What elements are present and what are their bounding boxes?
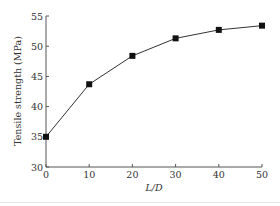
data-series xyxy=(43,23,265,140)
y-tick-label: 35 xyxy=(31,131,43,142)
x-axis-title: L/D xyxy=(144,182,163,193)
data-point-marker xyxy=(129,53,135,59)
divider xyxy=(0,202,280,203)
data-point-marker xyxy=(173,35,179,41)
y-axis-title: Tensile strength (MPa) xyxy=(12,36,23,146)
axes xyxy=(46,16,262,167)
x-tick-label: 20 xyxy=(126,169,138,180)
data-point-marker xyxy=(86,81,92,87)
y-tick-label: 40 xyxy=(31,101,43,112)
x-tick-label: 0 xyxy=(43,169,49,180)
y-tick-label: 45 xyxy=(31,71,43,82)
line-chart: 303540455055 01020304050 L/D Tensile str… xyxy=(0,0,280,206)
y-tick-label: 55 xyxy=(31,11,43,22)
x-tick-label: 50 xyxy=(256,169,268,180)
x-tick-label: 30 xyxy=(170,169,182,180)
data-point-marker xyxy=(259,23,265,29)
data-point-marker xyxy=(216,27,222,33)
x-tick-label: 10 xyxy=(83,169,95,180)
x-tick-label: 40 xyxy=(213,169,225,180)
x-axis-ticks: 01020304050 xyxy=(43,164,268,180)
y-tick-label: 50 xyxy=(31,41,43,52)
y-tick-label: 30 xyxy=(31,162,43,173)
series-line xyxy=(46,26,262,137)
data-point-marker xyxy=(43,134,49,140)
